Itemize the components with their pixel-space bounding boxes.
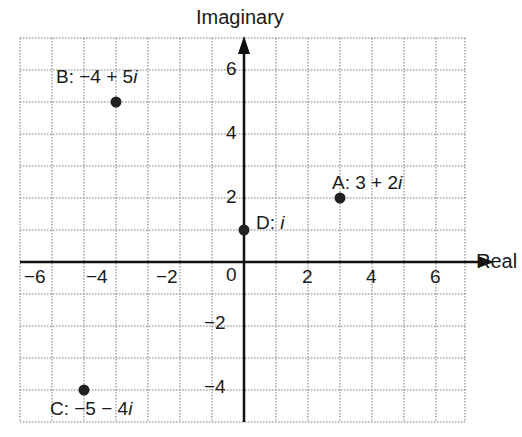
point-d bbox=[239, 225, 250, 236]
x-axis-title: Real bbox=[476, 250, 517, 273]
point-a-label: A: 3 + 2i bbox=[332, 172, 402, 194]
x-tick: 0 bbox=[226, 264, 237, 286]
y-tick: 6 bbox=[226, 58, 237, 80]
y-tick: −2 bbox=[204, 312, 226, 334]
point-a bbox=[335, 193, 346, 204]
point-c bbox=[79, 385, 90, 396]
y-tick: 4 bbox=[226, 122, 237, 144]
x-tick: −6 bbox=[24, 266, 46, 288]
x-tick: −2 bbox=[156, 266, 178, 288]
point-b-label: B: −4 + 5i bbox=[56, 66, 137, 88]
y-axis-title: Imaginary bbox=[196, 6, 284, 29]
y-tick: −4 bbox=[204, 376, 226, 398]
point-d-label: D: i bbox=[256, 212, 285, 234]
y-tick: 2 bbox=[226, 186, 237, 208]
x-tick: −4 bbox=[86, 266, 108, 288]
x-tick: 4 bbox=[366, 266, 377, 288]
point-b bbox=[111, 97, 122, 108]
x-tick: 6 bbox=[430, 266, 441, 288]
x-tick: 2 bbox=[302, 266, 313, 288]
point-c-label: C: −5 − 4i bbox=[50, 398, 132, 420]
axes bbox=[20, 48, 482, 422]
imaginary-axis-arrow-icon bbox=[238, 36, 250, 54]
